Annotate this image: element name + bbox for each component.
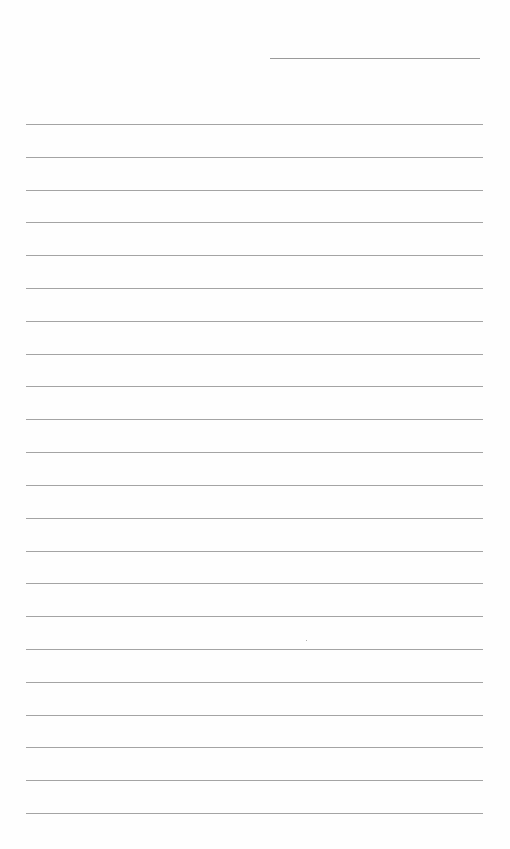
ruled-line [26, 616, 483, 617]
ruled-line [26, 321, 483, 322]
ruled-line [26, 452, 483, 453]
lined-paper-page [0, 0, 510, 849]
ruled-line [26, 222, 483, 223]
ruled-line [26, 157, 483, 158]
ruled-line [26, 288, 483, 289]
paper-speck [306, 640, 307, 641]
ruled-line [26, 124, 483, 125]
ruled-line [26, 551, 483, 552]
ruled-line [26, 649, 483, 650]
ruled-line [26, 386, 483, 387]
ruled-line [26, 747, 483, 748]
ruled-line [26, 780, 483, 781]
ruled-line [26, 682, 483, 683]
ruled-line [26, 813, 483, 814]
ruled-line [26, 583, 483, 584]
ruled-line [26, 190, 483, 191]
ruled-line [26, 255, 483, 256]
ruled-line [26, 485, 483, 486]
header-date-line [270, 58, 480, 59]
ruled-line [26, 419, 483, 420]
ruled-line [26, 518, 483, 519]
ruled-line [26, 354, 483, 355]
ruled-line [26, 715, 483, 716]
